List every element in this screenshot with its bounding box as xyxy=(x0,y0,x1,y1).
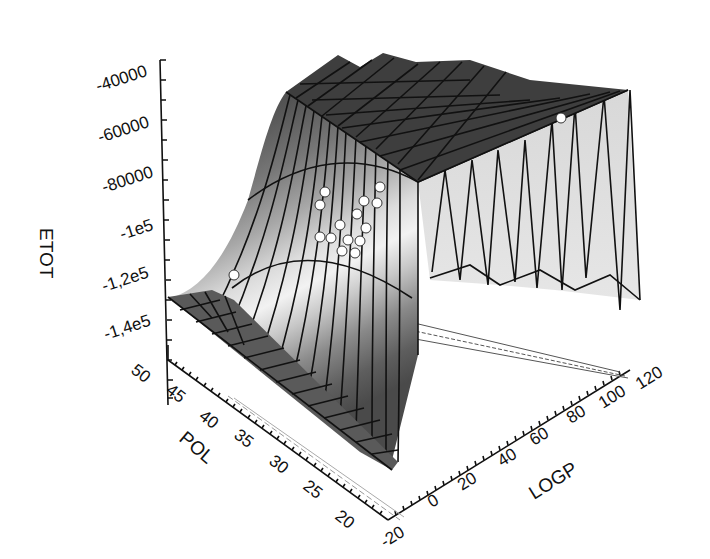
z-axis: -40000 -60000 -80000 -1e5 -1,2e5 -1,4e5 … xyxy=(36,60,173,405)
data-point xyxy=(315,232,325,242)
data-point xyxy=(343,235,353,245)
data-point xyxy=(320,187,330,197)
x-axis: -20 0 20 40 60 80 100 120 LOGP xyxy=(377,362,666,551)
y-tick-label: 50 xyxy=(128,360,155,387)
x-tick-label: 120 xyxy=(632,362,666,393)
x-tick-label: 20 xyxy=(454,468,480,494)
data-point xyxy=(361,223,371,233)
x-tick-label: 80 xyxy=(563,401,589,427)
y-tick-label: 35 xyxy=(231,425,258,452)
y-tick-label: 40 xyxy=(196,406,223,433)
data-point xyxy=(350,248,360,258)
z-tick-label: -1,4e5 xyxy=(101,311,153,344)
data-point xyxy=(335,220,345,230)
data-point xyxy=(326,233,336,243)
data-point xyxy=(556,113,566,123)
x-tick-label: 100 xyxy=(595,381,629,412)
y-tick-label: 25 xyxy=(300,476,327,503)
y-axis-title: POL xyxy=(175,427,218,468)
data-point xyxy=(229,270,239,280)
x-tick-label: 60 xyxy=(526,423,552,449)
data-point xyxy=(372,198,382,208)
y-tick-label: 30 xyxy=(266,451,293,478)
data-point xyxy=(352,209,362,219)
z-tick-label: -40000 xyxy=(93,61,149,95)
surface-plot: -40000 -60000 -80000 -1e5 -1,2e5 -1,4e5 … xyxy=(0,0,710,559)
z-tick-label: -1e5 xyxy=(117,215,155,244)
z-tick-label: -80000 xyxy=(99,162,155,196)
z-tick-label: -1,2e5 xyxy=(99,263,151,296)
z-tick-label: -60000 xyxy=(95,112,151,146)
y-tick-label: 20 xyxy=(332,506,359,533)
z-axis-title: ETOT xyxy=(36,228,57,279)
x-tick-label: 0 xyxy=(424,490,442,511)
data-point xyxy=(355,236,365,246)
data-point xyxy=(315,200,325,210)
x-tick-label: 40 xyxy=(494,444,520,470)
data-point xyxy=(375,182,385,192)
x-tick-label: -20 xyxy=(377,522,408,551)
data-point xyxy=(359,196,369,206)
y-tick-label: 45 xyxy=(163,380,190,407)
x-axis-title: LOGP xyxy=(525,458,581,504)
data-point xyxy=(337,246,347,256)
